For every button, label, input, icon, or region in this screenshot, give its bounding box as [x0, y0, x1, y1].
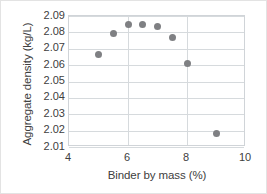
gridline-horizontal	[69, 16, 244, 17]
data-point	[213, 130, 220, 137]
gridline-horizontal	[69, 98, 244, 99]
scatter-chart: Aggregate density (kg/L) 2.092.082.072.0…	[0, 0, 267, 194]
data-point	[169, 34, 176, 41]
y-tick-label: 2.09	[33, 10, 65, 21]
gridline-horizontal	[69, 49, 244, 50]
y-tick-label: 2.01	[33, 141, 65, 152]
data-point	[139, 21, 146, 28]
gridline-vertical	[187, 16, 188, 145]
y-tick-label: 2.05	[33, 75, 65, 86]
data-point	[184, 60, 191, 67]
data-point	[125, 21, 132, 28]
gridline-horizontal	[69, 114, 244, 115]
x-tick-label: 4	[53, 151, 83, 163]
y-tick-label: 2.04	[33, 91, 65, 102]
gridline-horizontal	[69, 82, 244, 83]
x-axis-title: Binder by mass (%)	[67, 169, 247, 181]
x-tick-label: 8	[171, 151, 201, 163]
y-tick-label: 2.06	[33, 59, 65, 70]
y-axis-tick-labels: 2.092.082.072.062.052.042.032.022.01	[31, 15, 65, 146]
gridline-horizontal	[69, 65, 244, 66]
x-axis-tick-labels: 46810	[68, 151, 245, 167]
y-tick-label: 2.08	[33, 26, 65, 37]
gridline-horizontal	[69, 32, 244, 33]
gridline-horizontal	[69, 147, 244, 148]
y-tick-label: 2.07	[33, 42, 65, 53]
x-tick-label: 6	[112, 151, 142, 163]
y-tick-label: 2.02	[33, 124, 65, 135]
y-tick-label: 2.03	[33, 108, 65, 119]
x-tick-label: 10	[230, 151, 260, 163]
data-point	[95, 51, 102, 58]
data-point	[154, 23, 161, 30]
plot-area	[68, 15, 245, 146]
data-point	[110, 30, 117, 37]
gridline-vertical	[128, 16, 129, 145]
